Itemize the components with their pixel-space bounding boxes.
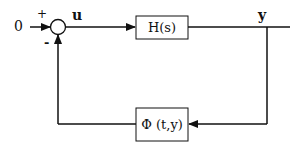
plus-sign: +	[37, 7, 47, 21]
forward-block-label: H(s)	[148, 20, 176, 35]
input-label: 0	[14, 18, 23, 34]
feedback-block-label: Φ (t,y)	[141, 117, 183, 132]
summing-junction	[51, 20, 66, 35]
minus-sign: -	[44, 35, 49, 50]
block-diagram: 0 + - u H(s) y Φ (t,y)	[0, 0, 303, 148]
signal-y-label: y	[257, 7, 267, 23]
signal-u-label: u	[72, 7, 82, 23]
